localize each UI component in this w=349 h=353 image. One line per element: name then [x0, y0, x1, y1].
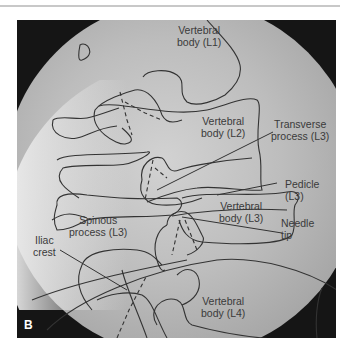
fluoroscopy-figure: Vertebral body (L1) Vertebral body (L2) … [17, 20, 336, 338]
label-line: Iliac [33, 234, 56, 246]
label-vertebral-body-l2: Vertebral body (L2) [201, 115, 245, 139]
label-vertebral-body-l3: Vertebral body (L3) [219, 200, 263, 224]
label-transverse-process-l3: Transverse process (L3) [271, 118, 329, 142]
label-line: tip [281, 229, 314, 241]
label-line: Needle [281, 217, 314, 229]
label-vertebral-body-l4: Vertebral body (L4) [201, 295, 245, 319]
label-pedicle-l3: Pedicle (L3) [285, 178, 319, 202]
label-line: body (L4) [201, 307, 245, 319]
label-line: (L3) [285, 190, 319, 202]
label-line: body (L1) [177, 36, 221, 48]
label-line: process (L3) [69, 226, 127, 238]
label-needle-tip: Needle tip [281, 217, 314, 241]
panel-letter: B [24, 318, 33, 332]
label-line: Vertebral [201, 295, 245, 307]
label-line: crest [33, 246, 56, 258]
label-line: Vertebral [177, 24, 221, 36]
label-line: process (L3) [271, 130, 329, 142]
label-line: Transverse [271, 118, 329, 130]
label-spinous-process-l3: Spinous process (L3) [69, 214, 127, 238]
label-line: Pedicle [285, 178, 319, 190]
label-vertebral-body-l1: Vertebral body (L1) [177, 24, 221, 48]
label-line: Vertebral [219, 200, 263, 212]
label-line: Vertebral [201, 115, 245, 127]
label-line: body (L3) [219, 212, 263, 224]
label-line: body (L2) [201, 127, 245, 139]
label-line: Spinous [69, 214, 127, 226]
top-rule [0, 5, 340, 7]
label-iliac-crest: Iliac crest [33, 234, 56, 258]
